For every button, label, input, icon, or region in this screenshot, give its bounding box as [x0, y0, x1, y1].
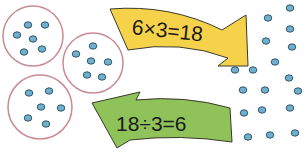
dots [13, 22, 49, 55]
group-2 [63, 33, 123, 93]
dots [24, 88, 65, 127]
group-1 [3, 6, 63, 66]
dots [72, 43, 112, 80]
diagram-canvas: 6×3=18 18÷3=6 [0, 0, 307, 153]
group-3 [8, 75, 72, 139]
divide-equation: 18÷3=6 [116, 112, 187, 135]
multiply-arrow: 6×3=18 [110, 8, 248, 66]
divide-arrow: 18÷3=6 [92, 92, 232, 148]
